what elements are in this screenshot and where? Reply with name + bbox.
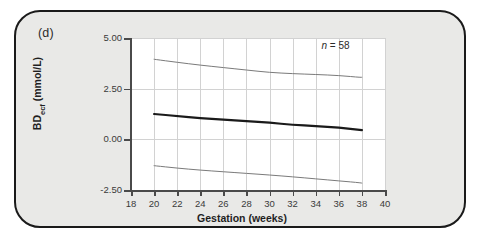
y-tick-label: 0.00: [74, 133, 122, 144]
x-tick-mark: [293, 190, 295, 196]
y-tick-label: -2.50: [74, 184, 122, 195]
x-tick-label: 22: [165, 198, 189, 209]
y-tick-label: 2.50: [74, 83, 122, 94]
y-axis-line: [130, 38, 132, 190]
x-tick-mark: [362, 190, 364, 196]
x-tick-label: 26: [211, 198, 235, 209]
x-tick-mark: [200, 190, 202, 196]
x-tick-mark: [385, 190, 387, 196]
curve-mean: [154, 114, 362, 130]
figure-frame: (d) -2.500.002.505.00 182022242628303234…: [14, 10, 466, 228]
curve-lower: [154, 166, 362, 183]
x-tick-label: 34: [304, 198, 328, 209]
gridline-vertical: [385, 38, 386, 190]
x-tick-label: 36: [327, 198, 351, 209]
x-axis-line: [130, 190, 386, 192]
x-tick-label: 40: [373, 198, 397, 209]
y-tick-label: 5.00: [74, 32, 122, 43]
curve-upper: [154, 59, 362, 77]
y-tick-mark: [124, 190, 130, 192]
sample-size-equals: =: [327, 40, 338, 51]
y-axis-title-units: (mmol/L): [31, 57, 43, 104]
y-tick-mark: [124, 89, 130, 91]
x-tick-mark: [154, 190, 156, 196]
y-axis-title-subscript: ecf: [38, 104, 47, 115]
y-tick-mark: [124, 139, 130, 141]
x-axis-title: Gestation (weeks): [16, 212, 466, 224]
x-tick-label: 38: [350, 198, 374, 209]
chart-curves: [131, 38, 385, 190]
y-axis-title: BDecf (mmol/L): [31, 24, 46, 164]
x-tick-mark: [223, 190, 225, 196]
x-tick-mark: [246, 190, 248, 196]
x-tick-mark: [316, 190, 318, 196]
x-tick-label: 32: [281, 198, 305, 209]
x-tick-mark: [131, 190, 133, 196]
x-tick-label: 24: [188, 198, 212, 209]
x-tick-mark: [177, 190, 179, 196]
x-tick-label: 28: [234, 198, 258, 209]
plot-area: [131, 38, 385, 190]
x-tick-label: 30: [258, 198, 282, 209]
x-tick-mark: [339, 190, 341, 196]
x-tick-mark: [270, 190, 272, 196]
y-axis-title-base: BD: [31, 115, 43, 130]
sample-size-value: 58: [338, 40, 349, 51]
y-tick-mark: [124, 38, 130, 40]
sample-size-annotation: n = 58: [322, 40, 350, 51]
x-tick-label: 18: [119, 198, 143, 209]
plot-wrap: -2.500.002.505.00 1820222426283032343638…: [16, 12, 466, 228]
x-tick-label: 20: [142, 198, 166, 209]
